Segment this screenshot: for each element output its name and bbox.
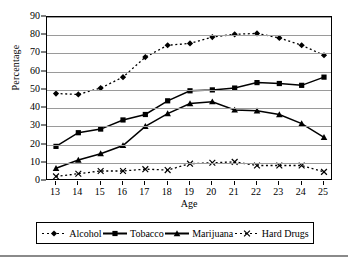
y-axis: 0102030405060708090 [0,16,46,180]
series-layer [47,17,333,181]
cross-marker [244,230,250,236]
legend-label: Alcohol [69,228,101,239]
x-tick-mark [211,181,212,185]
y-tick-label: 70 [30,47,40,57]
diamond-marker [299,42,305,48]
legend-entry-marijuana: Marijuana [164,228,233,239]
x-tick-mark [323,181,324,185]
diamond-marker [51,230,57,236]
square-marker [143,112,148,117]
y-tick-label: 10 [30,157,40,167]
series-tobacco [53,75,326,149]
y-tick-label: 80 [30,29,40,39]
x-tick-label: 17 [139,187,149,197]
x-tick-label: 13 [50,187,60,197]
x-tick-label: 18 [162,187,172,197]
legend-entry-tobacco: Tobacco [102,228,164,239]
cross-marker [165,167,171,173]
x-tick-mark [301,181,302,185]
y-tick-label: 0 [35,175,40,185]
legend-entry-alcohol: Alcohol [41,228,101,239]
gridline [47,163,331,164]
x-axis-title: Age [46,198,332,209]
gridline [47,35,331,36]
x-tick-mark [256,181,257,185]
legend-swatch-cross [234,228,260,239]
square-marker [299,83,304,88]
y-tick-label: 60 [30,66,40,76]
y-tick-label: 90 [30,11,40,21]
x-tick-label: 24 [296,187,306,197]
x-tick-label: 14 [72,187,82,197]
x-tick-mark [100,181,101,185]
legend-swatch-triangle [164,228,190,239]
series-alcohol [53,30,327,97]
x-tick-mark [189,181,190,185]
y-tick-label: 20 [30,139,40,149]
series-line [56,102,324,169]
legend-label: Tobacco [130,228,164,239]
chart-figure: 0102030405060708090 Percentage 131415161… [0,0,348,257]
cross-marker [53,174,59,180]
x-tick-label: 23 [273,187,283,197]
series-marijuana [53,98,328,170]
x-tick-mark [144,181,145,185]
triangle-marker [321,134,328,140]
legend-label: Marijuana [192,228,233,239]
diamond-marker [120,74,126,80]
chart-legend: AlcoholTobaccoMarijuanaHard Drugs [36,222,314,244]
gridline [47,108,331,109]
gridline [47,90,331,91]
square-marker [165,98,170,103]
x-tick-mark [55,181,56,185]
x-tick-label: 25 [318,187,328,197]
gridline [47,17,331,18]
square-marker [277,81,282,86]
legend-label: Hard Drugs [262,228,309,239]
x-tick-mark [167,181,168,185]
plot-area [46,16,332,180]
plot-wrap [46,16,332,180]
gridline [47,72,331,73]
square-marker [120,117,125,122]
y-tick-label: 30 [30,120,40,130]
square-marker [321,75,326,80]
diamond-marker [165,42,171,48]
legend-entry-hard-drugs: Hard Drugs [234,228,309,239]
x-tick-label: 22 [251,187,261,197]
gridline [47,53,331,54]
diamond-marker [75,91,81,97]
x-tick-mark [234,181,235,185]
x-tick-mark [77,181,78,185]
x-tick-label: 21 [229,187,239,197]
x-tick-label: 15 [95,187,105,197]
series-line [56,77,324,146]
y-tick-label: 50 [30,84,40,94]
diamond-marker [53,90,59,96]
y-tick-label: 40 [30,102,40,112]
square-marker [112,230,117,235]
x-tick-mark [278,181,279,185]
x-tick-label: 20 [206,187,216,197]
x-tick-mark [122,181,123,185]
y-axis-title: Percentage [10,25,21,111]
legend-swatch-diamond [41,228,67,239]
diamond-marker [187,40,193,46]
legend-swatch-square [102,228,128,239]
gridline [47,145,331,146]
gridline [47,126,331,127]
square-marker [254,80,259,85]
square-marker [76,130,81,135]
x-tick-label: 19 [184,187,194,197]
x-tick-label: 16 [117,187,127,197]
